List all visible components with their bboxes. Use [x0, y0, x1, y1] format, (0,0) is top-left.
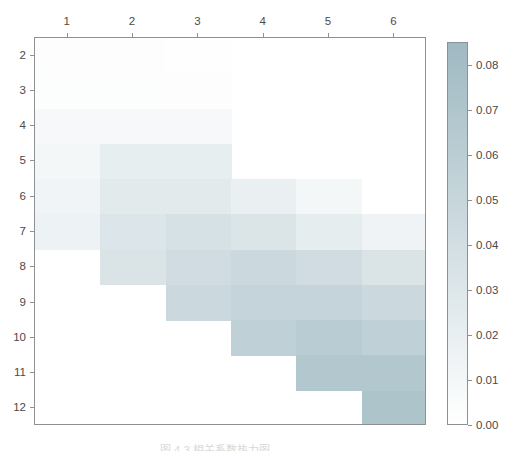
y-tick-label: 3: [0, 84, 26, 96]
x-tick-mark: [393, 33, 394, 37]
heatmap-cell: [100, 214, 166, 250]
y-tick-mark: [30, 160, 34, 161]
y-tick-mark: [30, 266, 34, 267]
heatmap-cell: [362, 250, 426, 286]
heatmap-cell: [35, 73, 101, 109]
heatmap-cell: [231, 179, 297, 215]
heatmap-cell: [100, 109, 166, 145]
y-tick-mark: [30, 125, 34, 126]
x-tick-label: 3: [194, 15, 200, 27]
heatmap-cell: [362, 320, 426, 356]
colorbar-tick-mark: [468, 290, 472, 291]
colorbar-tick-mark: [468, 155, 472, 156]
heatmap-cell: [35, 179, 101, 215]
colorbar-tick-label: 0.02: [476, 329, 498, 341]
colorbar-tick-label: 0.05: [476, 194, 498, 206]
heatmap-cell: [166, 214, 232, 250]
heatmap-cell: [296, 355, 362, 391]
y-tick-label: 11: [0, 366, 26, 378]
heatmap-cell: [166, 73, 232, 109]
heatmap-cell: [35, 109, 101, 145]
x-tick-mark: [132, 33, 133, 37]
x-tick-label: 2: [129, 15, 135, 27]
colorbar-tick-label: 0.08: [476, 59, 498, 71]
colorbar-tick-mark: [468, 425, 472, 426]
heatmap-cell-grid: [35, 38, 425, 424]
heatmap-cell: [296, 250, 362, 286]
x-tick-mark: [197, 33, 198, 37]
heatmap-cell: [166, 285, 232, 321]
y-tick-label: 5: [0, 154, 26, 166]
heatmap-cell: [362, 285, 426, 321]
y-tick-label: 8: [0, 260, 26, 272]
heatmap-cell: [296, 214, 362, 250]
x-tick-label: 5: [325, 15, 331, 27]
heatmap-cell: [100, 73, 166, 109]
y-tick-mark: [30, 407, 34, 408]
y-tick-label: 2: [0, 49, 26, 61]
heatmap-cell: [296, 179, 362, 215]
x-tick-mark: [67, 33, 68, 37]
heatmap-cell: [35, 38, 101, 74]
y-tick-mark: [30, 90, 34, 91]
y-tick-mark: [30, 337, 34, 338]
heatmap-plot-area: [34, 37, 426, 425]
y-tick-label: 9: [0, 296, 26, 308]
heatmap-cell: [35, 144, 101, 180]
y-tick-mark: [30, 55, 34, 56]
heatmap-figure: 123456 23456789101112 0.080.070.060.050.…: [0, 0, 516, 451]
y-tick-mark: [30, 302, 34, 303]
heatmap-cell: [362, 214, 426, 250]
heatmap-cell: [166, 250, 232, 286]
heatmap-cell: [100, 179, 166, 215]
colorbar-tick-label: 0.06: [476, 149, 498, 161]
colorbar-tick-mark: [468, 380, 472, 381]
heatmap-cell: [362, 355, 426, 391]
x-tick-label: 1: [63, 15, 69, 27]
x-tick-mark: [328, 33, 329, 37]
y-tick-mark: [30, 231, 34, 232]
colorbar-tick-label: 0.00: [476, 419, 498, 431]
heatmap-cell: [35, 214, 101, 250]
heatmap-cell: [100, 38, 166, 74]
heatmap-cell: [231, 285, 297, 321]
colorbar-tick-mark: [468, 65, 472, 66]
heatmap-cell: [166, 179, 232, 215]
colorbar-tick-mark: [468, 245, 472, 246]
heatmap-cell: [296, 285, 362, 321]
heatmap-cell: [166, 109, 232, 145]
colorbar-tick-label: 0.04: [476, 239, 498, 251]
colorbar-tick-mark: [468, 200, 472, 201]
y-tick-mark: [30, 196, 34, 197]
colorbar-tick-mark: [468, 335, 472, 336]
heatmap-cell: [166, 144, 232, 180]
colorbar: [447, 42, 468, 425]
heatmap-cell: [231, 320, 297, 356]
y-tick-label: 6: [0, 190, 26, 202]
x-tick-mark: [263, 33, 264, 37]
y-tick-label: 7: [0, 225, 26, 237]
colorbar-gradient: [448, 43, 467, 424]
y-tick-label: 12: [0, 401, 26, 413]
colorbar-tick-label: 0.07: [476, 104, 498, 116]
y-tick-label: 10: [0, 331, 26, 343]
heatmap-cell: [362, 391, 426, 425]
colorbar-tick-label: 0.03: [476, 284, 498, 296]
y-tick-mark: [30, 372, 34, 373]
colorbar-tick-mark: [468, 110, 472, 111]
figure-caption: 图 4-3 相关系数热力图: [0, 441, 430, 451]
heatmap-cell: [100, 250, 166, 286]
y-tick-label: 4: [0, 119, 26, 131]
x-tick-label: 4: [259, 15, 265, 27]
heatmap-cell: [100, 144, 166, 180]
heatmap-cell: [231, 214, 297, 250]
x-tick-label: 6: [390, 15, 396, 27]
heatmap-cell: [231, 250, 297, 286]
heatmap-cell: [166, 38, 232, 74]
colorbar-tick-label: 0.01: [476, 374, 498, 386]
heatmap-cell: [296, 320, 362, 356]
